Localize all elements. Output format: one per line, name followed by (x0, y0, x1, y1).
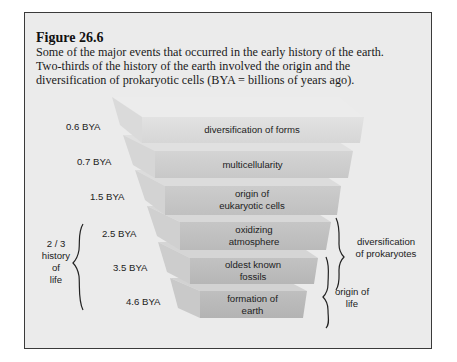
time-label: 4.6 BYA (126, 296, 161, 307)
event-label: origin of eukaryotic cells (165, 188, 339, 212)
two-thirds-history-label: 2 / 3 history of life (38, 238, 74, 286)
time-label: 1.5 BYA (90, 191, 125, 202)
right-upper-brace (336, 218, 344, 290)
time-label: 0.7 BYA (77, 156, 112, 167)
slab-diversification-of-forms (112, 97, 364, 143)
event-label: diversification of forms (142, 124, 362, 136)
event-label: multicellularity (155, 159, 350, 171)
origin-of-life-label: origin of life (328, 286, 376, 310)
time-label: 0.6 BYA (66, 121, 101, 132)
left-brace (73, 224, 83, 310)
time-label: 2.5 BYA (102, 228, 137, 239)
time-label: 3.5 BYA (113, 262, 148, 273)
event-label: oldest known fossils (190, 259, 316, 283)
event-label: formation of earth (200, 293, 305, 317)
diversification-of-prokaryotes-label: diversification of prokaryotes (344, 236, 428, 260)
event-label: oxidizing atmosphere (180, 224, 328, 248)
